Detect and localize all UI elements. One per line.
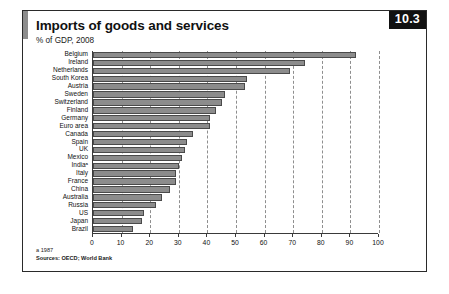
bar (93, 210, 144, 216)
category-label: China (71, 186, 88, 193)
axis-tick (349, 234, 350, 237)
category-label: Australia (63, 194, 88, 201)
bar (93, 178, 176, 184)
category-label: US (79, 210, 88, 217)
category-label: Indiaᵃ (71, 162, 88, 169)
chart-figure: 10.3 Imports of goods and services % of … (22, 10, 427, 272)
figure-number-badge: 10.3 (389, 11, 426, 29)
category-label: Austria (68, 83, 88, 90)
bar (93, 139, 187, 145)
x-tick-label: 40 (203, 239, 211, 246)
axis-tick (235, 234, 236, 237)
x-tick-label: 50 (231, 239, 239, 246)
category-label: Brazil (72, 226, 88, 233)
bar (93, 194, 162, 200)
source-text: Sources: OECD; World Bank (36, 254, 112, 263)
category-label: Ireland (68, 59, 88, 66)
category-label: France (68, 178, 88, 185)
category-label: Japan (70, 218, 88, 225)
bar (93, 186, 170, 192)
bar (93, 76, 247, 82)
bars-container (92, 51, 378, 233)
gridline (293, 51, 294, 233)
category-label: Russia (68, 202, 88, 209)
axis-tick (321, 234, 322, 237)
axis-tick (149, 234, 150, 237)
chart-title: Imports of goods and services (36, 18, 229, 33)
x-tick-label: 20 (145, 239, 153, 246)
gridline (265, 51, 266, 233)
axis-tick (178, 234, 179, 237)
x-axis: 0102030405060708090100 (92, 233, 378, 256)
axis-tick (121, 234, 122, 237)
bar (93, 218, 142, 224)
bar (93, 68, 290, 74)
category-label: Germany (61, 115, 88, 122)
category-label: Switzerland (54, 99, 88, 106)
plot-area: BelgiumIrelandNetherlandsSouth KoreaAust… (36, 51, 414, 237)
category-label: Italy (76, 170, 88, 177)
bar (93, 99, 222, 105)
category-label: Sweden (65, 91, 89, 98)
bar (93, 123, 210, 129)
gridline (379, 51, 380, 233)
axis-tick (264, 234, 265, 237)
bar (93, 115, 210, 121)
category-label: South Korea (52, 75, 88, 82)
x-tick-label: 80 (317, 239, 325, 246)
x-tick-label: 90 (346, 239, 354, 246)
category-label: Belgium (65, 51, 88, 58)
axis-tick (378, 234, 379, 237)
category-axis: BelgiumIrelandNetherlandsSouth KoreaAust… (36, 51, 90, 233)
footnotes: a 1987 Sources: OECD; World Bank (36, 246, 112, 263)
x-tick-label: 100 (372, 239, 383, 246)
gridline (350, 51, 351, 233)
bar (93, 163, 179, 169)
bar (93, 91, 225, 97)
axis-tick (292, 234, 293, 237)
category-label: Euro area (59, 123, 88, 130)
bar (93, 60, 305, 66)
x-tick-label: 30 (174, 239, 182, 246)
axis-tick (206, 234, 207, 237)
accent-bar (23, 11, 28, 39)
bar (93, 52, 356, 58)
category-label: Finland (67, 107, 88, 114)
category-label: Canada (65, 131, 88, 138)
gridline (322, 51, 323, 233)
bar (93, 202, 156, 208)
axis-tick (92, 234, 93, 237)
bar (93, 170, 176, 176)
x-tick-label: 70 (288, 239, 296, 246)
bar (93, 155, 182, 161)
bar (93, 147, 185, 153)
bar (93, 83, 245, 89)
bar (93, 226, 133, 232)
category-label: Mexico (67, 154, 88, 161)
chart-subtitle: % of GDP, 2008 (36, 36, 94, 45)
category-label: UK (79, 146, 88, 153)
x-tick-label: 10 (117, 239, 125, 246)
category-label: Netherlands (53, 67, 88, 74)
bar (93, 107, 216, 113)
x-tick-label: 60 (260, 239, 268, 246)
category-label: Spain (71, 139, 88, 146)
bar (93, 131, 193, 137)
footnote-text: a 1987 (36, 246, 112, 255)
